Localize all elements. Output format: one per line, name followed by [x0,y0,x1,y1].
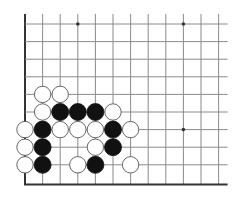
go-board [0,0,242,197]
white-stone [87,139,103,155]
star-point [76,22,80,26]
black-stone [34,156,51,173]
black-stone [105,121,122,138]
white-stone [70,157,86,173]
black-stone [34,139,51,156]
star-point [182,128,186,132]
black-stone [105,139,122,156]
white-stone [70,121,86,137]
black-stone [87,104,104,121]
white-stone [17,157,33,173]
black-stone [69,104,86,121]
white-stone [17,139,33,155]
black-stone [87,156,104,173]
white-stone [105,104,121,120]
white-stone [52,121,68,137]
black-stone [34,121,51,138]
white-stone [52,86,68,102]
white-stone [87,121,103,137]
white-stone [17,121,33,137]
white-stone [122,121,138,137]
white-stone [34,86,50,102]
white-stone [34,104,50,120]
black-stone [52,104,69,121]
star-point [182,22,186,26]
white-stone [122,157,138,173]
